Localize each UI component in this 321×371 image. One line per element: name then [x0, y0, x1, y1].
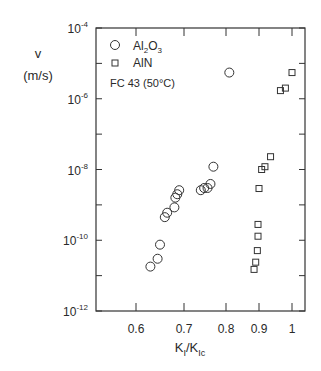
aln-point: [251, 266, 257, 272]
al2o3-point: [146, 262, 155, 271]
y-tick-label: 10-10: [63, 232, 88, 248]
x-tick-label: 0.8: [218, 322, 235, 336]
legend-label-al2o3: Al2O3: [133, 39, 162, 55]
aln-point: [256, 186, 262, 192]
x-axis-ticks: [136, 28, 292, 311]
al2o3-point: [225, 68, 234, 77]
annotation-fc43: FC 43 (50°C): [110, 77, 175, 89]
data-points: [146, 68, 295, 272]
y-axis-variable: v: [35, 46, 42, 61]
y-tick-label: 10-12: [63, 303, 88, 319]
al2o3-point: [156, 240, 165, 249]
al2o3-point: [170, 203, 179, 212]
y-axis-unit: (m/s): [23, 68, 53, 83]
x-tick-label: 0.9: [251, 322, 268, 336]
aln-point: [254, 248, 260, 254]
crack-velocity-chart: 10-1210-1010-810-610-4 0.60.70.80.91 v (…: [0, 0, 321, 371]
x-axis-tick-labels: 0.60.70.80.91: [128, 322, 296, 336]
y-tick-label: 10-6: [68, 91, 89, 107]
y-axis-ticks: [96, 28, 305, 311]
y-tick-label: 10-8: [68, 162, 89, 178]
legend: Al2O3 AlN FC 43 (50°C): [110, 39, 175, 89]
aln-point: [255, 221, 261, 227]
al2o3-point: [209, 162, 218, 171]
y-tick-label: 10-4: [68, 20, 89, 36]
aln-point: [253, 259, 259, 265]
legend-label-aln: AlN: [133, 56, 152, 70]
legend-circle-icon: [111, 41, 120, 50]
al2o3-point: [153, 254, 162, 263]
x-tick-label: 0.6: [128, 322, 145, 336]
aln-point: [289, 70, 295, 76]
y-axis-tick-labels: 10-1210-1010-810-610-4: [63, 20, 88, 319]
legend-square-icon: [112, 60, 118, 66]
plot-frame: [96, 28, 305, 311]
x-axis-title: KI/KIc: [175, 340, 206, 358]
x-tick-label: 1: [289, 322, 296, 336]
aln-point: [255, 233, 261, 239]
aln-point: [268, 154, 274, 160]
x-tick-label: 0.7: [176, 322, 193, 336]
